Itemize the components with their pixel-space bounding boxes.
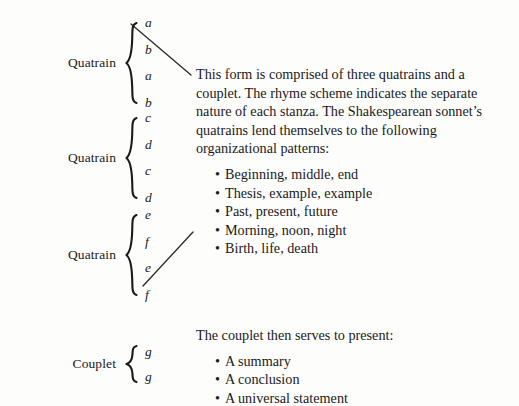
rhyme-letter: e	[145, 261, 151, 275]
rhyme-letter: f	[145, 288, 151, 302]
couplet-explanation-block: The couplet then serves to present: • A …	[196, 326, 496, 406]
rhyme-letter: e	[145, 208, 151, 222]
stanza-group-quatrain-2: Quatrain c d c d	[28, 111, 152, 204]
list-item: • Birth, life, death	[196, 239, 496, 258]
list-item: • Morning, noon, night	[196, 221, 496, 240]
rhyme-letter: b	[145, 43, 152, 57]
bullet-icon: •	[215, 221, 220, 240]
rhyme-letter: a	[145, 16, 152, 30]
rhyme-letter: g	[145, 370, 152, 384]
rhyme-scheme-quatrain-2: c d c d	[138, 111, 152, 204]
stanza-label-couplet: Couplet	[28, 356, 125, 372]
brace-couplet	[125, 344, 138, 384]
list-item-label: Thesis, example, example	[225, 185, 372, 201]
bullet-icon: •	[215, 370, 220, 389]
rhyme-letter: f	[145, 235, 151, 249]
rhyme-letter: c	[145, 111, 152, 125]
stanza-label-quatrain-1: Quatrain	[28, 55, 125, 71]
list-item-label: Morning, noon, night	[225, 222, 346, 238]
list-item: • A summary	[196, 352, 496, 371]
stanza-group-couplet: Couplet g g	[28, 344, 152, 384]
list-item: • A universal statement	[196, 389, 496, 406]
brace-quatrain-1	[125, 21, 138, 105]
quatrain-explanation-paragraph: This form is comprised of three quatrain…	[196, 65, 496, 158]
list-item-label: Beginning, middle, end	[225, 166, 358, 182]
stanza-group-quatrain-1: Quatrain a b a b	[28, 16, 152, 109]
bullet-icon: •	[215, 389, 220, 406]
list-item: • A conclusion	[196, 370, 496, 389]
brace-quatrain-2	[125, 116, 138, 200]
stanza-label-quatrain-3: Quatrain	[28, 247, 125, 263]
rhyme-letter: b	[145, 96, 152, 110]
rhyme-scheme-couplet: g g	[138, 345, 152, 383]
rhyme-letter: c	[145, 164, 152, 178]
list-item-label: A summary	[225, 353, 291, 369]
list-item: • Beginning, middle, end	[196, 165, 496, 184]
list-item-label: Past, present, future	[225, 203, 338, 219]
list-item: • Past, present, future	[196, 202, 496, 221]
rhyme-letter: d	[145, 191, 152, 205]
list-item-label: A universal statement	[225, 390, 348, 406]
couplet-purpose-list: • A summary • A conclusion • A universal…	[196, 352, 496, 406]
bullet-icon: •	[215, 202, 220, 221]
list-item-label: Birth, life, death	[225, 240, 318, 256]
rhyme-scheme-quatrain-1: a b a b	[138, 16, 152, 109]
list-item: • Thesis, example, example	[196, 184, 496, 203]
bullet-icon: •	[215, 184, 220, 203]
stanza-group-quatrain-3: Quatrain e f e f	[28, 208, 151, 301]
quatrain-pattern-list: • Beginning, middle, end • Thesis, examp…	[196, 165, 496, 258]
bullet-icon: •	[215, 165, 220, 184]
quatrain-explanation-block: This form is comprised of three quatrain…	[196, 65, 496, 258]
list-item-label: A conclusion	[225, 371, 299, 387]
bullet-icon: •	[215, 239, 220, 258]
rhyme-letter: a	[145, 69, 152, 83]
rhyme-letter: d	[145, 138, 152, 152]
stanza-label-quatrain-2: Quatrain	[28, 150, 125, 166]
rhyme-letter: g	[145, 345, 152, 359]
couplet-explanation-paragraph: The couplet then serves to present:	[196, 326, 496, 345]
rhyme-scheme-quatrain-3: e f e f	[138, 208, 151, 301]
brace-quatrain-3	[125, 213, 138, 297]
sonnet-structure-diagram: Quatrain a b a b Quatrain c d c d Quat	[0, 0, 519, 406]
bullet-icon: •	[215, 352, 220, 371]
